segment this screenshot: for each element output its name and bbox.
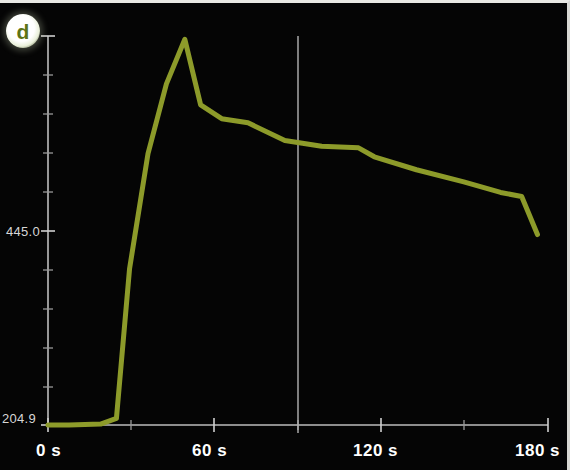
y-axis-bottom-label: 204.9 — [2, 411, 36, 426]
x-axis-label-60s: 60 s — [192, 441, 227, 461]
x-axis-label-0s: 0 s — [36, 441, 61, 461]
data-series-line — [48, 39, 537, 425]
x-axis-label-180s: 180 s — [515, 441, 560, 461]
chart-canvas — [0, 3, 570, 470]
panel-badge-d: d — [6, 14, 40, 48]
x-axis-label-120s: 120 s — [353, 441, 398, 461]
chart-panel: 0 445.0 204.9 0 s 60 s 120 s 180 s d — [0, 0, 570, 470]
panel-badge-label: d — [17, 21, 30, 42]
y-axis-mid-label: 445.0 — [6, 224, 40, 239]
